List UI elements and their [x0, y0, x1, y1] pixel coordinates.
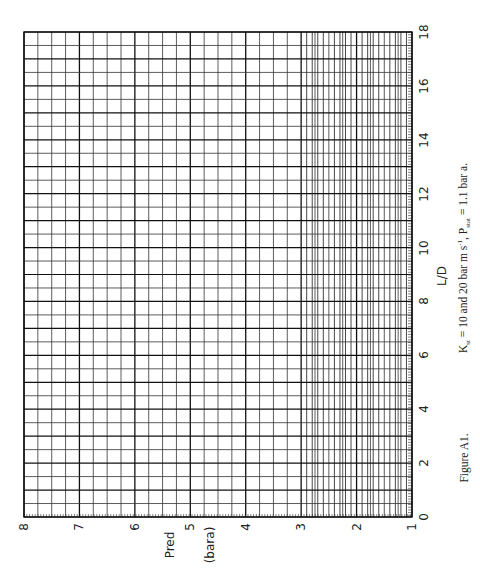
figure-number: Figure A1.	[458, 433, 470, 482]
caption-mid: = 10 and 20 bar m s	[457, 246, 469, 340]
ld-tick-label: 10	[417, 240, 431, 255]
caption-end: = 1.1 bar a.	[457, 163, 469, 218]
pred-tick-label: 1	[405, 523, 419, 531]
ld-tick-label: 0	[417, 513, 431, 521]
caption-k: K	[457, 345, 469, 353]
ld-axis-label: L/D	[435, 266, 449, 286]
pred-tick-label: 2	[350, 523, 364, 531]
pred-units-label: (bara)	[203, 527, 217, 564]
caption-k-sub: st	[464, 340, 472, 345]
ld-tick-label: 8	[417, 298, 431, 306]
ld-tick-label: 2	[417, 459, 431, 467]
pred-tick-label: 4	[239, 523, 253, 531]
caption-sup: -1	[456, 240, 464, 246]
ld-tick-label: 14	[417, 132, 431, 147]
chart-grid	[0, 0, 480, 588]
pred-tick-label: 5	[183, 523, 197, 531]
ld-tick-label: 12	[417, 186, 431, 201]
ld-tick-label: 4	[417, 405, 431, 413]
pred-tick-label: 3	[294, 523, 308, 531]
pred-tick-label: 8	[17, 523, 31, 531]
pred-tick-label: 6	[128, 523, 142, 531]
caption-p: , P	[457, 228, 469, 240]
ld-tick-label: 6	[417, 352, 431, 360]
ld-tick-label: 18	[417, 24, 431, 39]
caption-p-sub: stat	[464, 218, 472, 228]
pred-tick-label: 7	[72, 523, 86, 531]
figure-caption: Kst = 10 and 20 bar m s-1, Pstat = 1.1 b…	[456, 163, 472, 353]
ld-tick-label: 16	[417, 78, 431, 93]
pred-axis-label: Pred	[163, 532, 177, 559]
